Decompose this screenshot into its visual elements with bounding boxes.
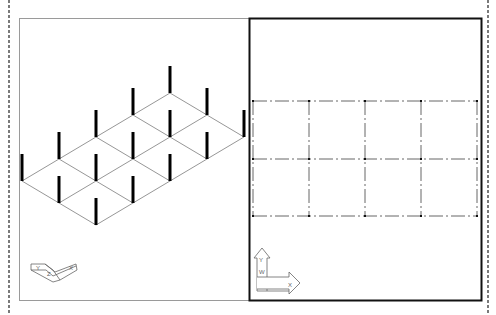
viewport-isometric[interactable]: Y Z X [20,19,250,301]
ucs-w-label: W [259,269,265,275]
ucs-y-label: Y [36,265,40,271]
ucs-x-label: X [69,265,73,271]
drawing-sheet: Y Z X Y W X [0,0,496,315]
ucs-x-label: X [288,282,292,288]
ucs-y-label: Y [259,257,263,263]
ucs-z-label: Z [47,271,51,277]
viewport-plan[interactable]: Y W X [250,19,482,301]
